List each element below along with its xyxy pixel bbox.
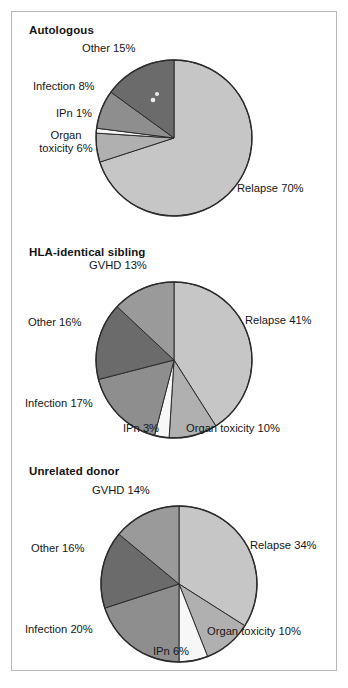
label-relapse: Relapse 70%: [237, 182, 304, 195]
label-infection: Infection 17%: [25, 397, 93, 410]
label-organ-toxicity: Organ toxicity 10%: [207, 625, 301, 638]
label-ipn: IPn 1%: [56, 107, 92, 120]
label-infection: Infection 8%: [33, 80, 95, 93]
pie-svg-autologous: [12, 12, 338, 232]
label-other: Other 15%: [82, 42, 135, 55]
label-ipn: IPn 3%: [123, 422, 159, 435]
label-organ-toxicity: Organ toxicity 6%: [25, 129, 107, 154]
pie-panel-autologous: Autologous: [12, 12, 336, 232]
label-organ-toxicity-line2: toxicity 6%: [39, 142, 92, 154]
pie-svg-hla: [12, 234, 338, 454]
label-organ-toxicity: Organ toxicity 10%: [186, 422, 280, 435]
speckle-artifact: [155, 92, 159, 96]
pie-slices-autologous: [96, 60, 252, 216]
pie-panel-unrelated-donor: Unrelated donor: [12, 453, 336, 673]
pie-panel-hla-identical-sibling: HLA-identical sibling: [12, 234, 336, 454]
label-other: Other 16%: [28, 316, 81, 329]
label-gvhd: GVHD 14%: [92, 484, 150, 497]
label-infection: Infection 20%: [25, 623, 93, 636]
speckle-artifact: [151, 98, 156, 103]
pie-slices-unrelated: [101, 506, 257, 662]
pie-chart-autologous: Other 15% Infection 8% IPn 1% Organ toxi…: [12, 12, 336, 232]
pie-chart-hla-identical-sibling: GVHD 13% Other 16% Infection 17% IPn 3% …: [12, 234, 336, 454]
pie-svg-unrelated: [12, 453, 338, 673]
label-relapse: Relapse 41%: [245, 314, 312, 327]
pie-chart-unrelated-donor: GVHD 14% Other 16% Infection 20% IPn 6% …: [12, 453, 336, 673]
label-organ-toxicity-line1: Organ: [50, 129, 81, 141]
figure-frame: Autologous: [11, 11, 337, 671]
label-other: Other 16%: [31, 542, 84, 555]
pie-slices-hla: [96, 282, 252, 438]
label-gvhd: GVHD 13%: [89, 259, 147, 272]
label-ipn: IPn 6%: [153, 645, 189, 658]
label-relapse: Relapse 34%: [250, 539, 317, 552]
